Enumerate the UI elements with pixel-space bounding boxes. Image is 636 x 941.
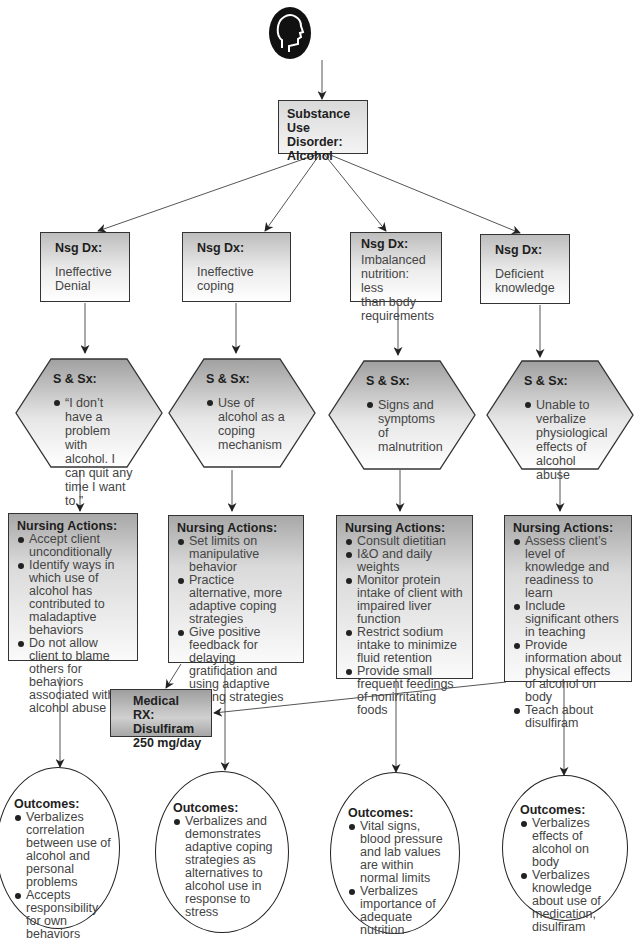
outcome-item: Verbalizes knowledge about use of medica… bbox=[520, 869, 619, 934]
root-diagnosis-box: Substance Use Disorder: Alcohol bbox=[278, 100, 368, 154]
signs-header: S & Sx: bbox=[206, 372, 286, 386]
action-item: Practice alternative, more adaptive copi… bbox=[177, 574, 295, 626]
dx-text-line: requirements bbox=[361, 309, 431, 323]
rx-title: Medical RX: bbox=[133, 694, 203, 722]
signs-header: S & Sx: bbox=[53, 372, 133, 386]
nsg-dx-box-nutrition: Nsg Dx: Imbalanced nutrition: less than … bbox=[350, 232, 442, 302]
medical-rx-box: Medical RX: Disulfiram 250 mg/day bbox=[110, 689, 212, 737]
outcome-item: Accepts responsibility for own behaviors bbox=[14, 889, 111, 941]
action-item: I&O and daily weights bbox=[345, 548, 464, 574]
human-head-profile-icon bbox=[268, 6, 312, 60]
nsg-dx-box-denial: Nsg Dx: Ineffective Denial bbox=[40, 232, 130, 302]
outcome-item: Vital signs, blood pressure and lab valu… bbox=[348, 820, 451, 885]
signs-hexagon-coping: S & Sx: Use of alcohol as a coping mecha… bbox=[168, 358, 316, 468]
nursing-actions-coping: Nursing Actions: Set limits on manipulat… bbox=[168, 515, 304, 663]
dx-header: Nsg Dx: bbox=[197, 241, 276, 255]
dx-header: Nsg Dx: bbox=[495, 243, 555, 257]
outcomes-oval-knowledge: Outcomes: Verbalizes effects of alcohol … bbox=[502, 775, 628, 921]
outcomes-oval-coping: Outcomes: Verbalizes and demonstrates ad… bbox=[155, 771, 289, 933]
action-item: Teach about disulfiram bbox=[513, 704, 623, 730]
dx-text-line: Deficient bbox=[495, 267, 555, 281]
rx-drug: Disulfiram bbox=[133, 722, 203, 736]
outcome-item: Verbalizes correlation between use of al… bbox=[14, 811, 111, 889]
rx-dose: 250 mg/day bbox=[133, 736, 203, 750]
sign-item: Unable to verbalize physiological effect… bbox=[524, 398, 604, 482]
action-item: Include significant others in teaching bbox=[513, 600, 623, 639]
outcome-item: Verbalizes and demonstrates adaptive cop… bbox=[173, 815, 280, 919]
outcomes-oval-nutrition: Outcomes: Vital signs, blood pressure an… bbox=[330, 772, 460, 934]
action-item: Accept client unconditionally bbox=[17, 533, 129, 559]
nursing-actions-knowledge: Nursing Actions: Assess client’s level o… bbox=[504, 515, 632, 682]
root-line-3: Alcohol bbox=[287, 149, 359, 163]
nursing-actions-denial: Nursing Actions: Accept client unconditi… bbox=[8, 513, 138, 661]
sign-item: “I don’t have a problem with alcohol. I … bbox=[53, 396, 133, 508]
outcome-item: Verbalizes importance of adequate nutrit… bbox=[348, 885, 451, 937]
dx-text-line: than body bbox=[361, 295, 431, 309]
dx-header: Nsg Dx: bbox=[361, 237, 431, 251]
dx-text-line: Denial bbox=[55, 279, 115, 293]
action-item: Provide information about physical effec… bbox=[513, 639, 623, 704]
root-line-2: Disorder: bbox=[287, 135, 359, 149]
action-item: Restrict sodium intake to minimize fluid… bbox=[345, 626, 464, 665]
root-line-1: Substance Use bbox=[287, 107, 359, 135]
signs-hexagon-denial: S & Sx: “I don’t have a problem with alc… bbox=[15, 358, 163, 468]
sign-item: Use of alcohol as a coping mechanism bbox=[206, 396, 286, 452]
action-item: Assess client’s level of knowledge and r… bbox=[513, 535, 623, 600]
dx-header: Nsg Dx: bbox=[55, 241, 115, 255]
sign-item: Signs and symptoms of malnutrition bbox=[366, 398, 446, 454]
signs-header: S & Sx: bbox=[524, 374, 604, 388]
action-item: Provide small frequent feedings of nonir… bbox=[345, 665, 464, 717]
action-item: Monitor protein intake of client with im… bbox=[345, 574, 464, 626]
outcomes-oval-denial: Outcomes: Verbalizes correlation between… bbox=[0, 767, 120, 929]
signs-header: S & Sx: bbox=[366, 374, 446, 388]
nsg-dx-box-coping: Nsg Dx: Ineffective coping bbox=[182, 232, 291, 302]
action-item: Set limits on manipulative behavior bbox=[177, 535, 295, 574]
signs-hexagon-nutrition: S & Sx: Signs and symptoms of malnutriti… bbox=[328, 360, 476, 470]
nsg-dx-box-knowledge: Nsg Dx: Deficient knowledge bbox=[480, 234, 570, 304]
signs-hexagon-knowledge: S & Sx: Unable to verbalize physiologica… bbox=[486, 360, 634, 470]
action-item: Identify ways in which use of alcohol ha… bbox=[17, 559, 129, 637]
dx-text-line: Ineffective bbox=[55, 265, 115, 279]
nursing-actions-nutrition: Nursing Actions: Consult dietitian I&O a… bbox=[336, 515, 473, 679]
outcome-item: Verbalizes effects of alcohol on body bbox=[520, 817, 619, 869]
dx-text-line: nutrition: less bbox=[361, 267, 431, 295]
dx-text-line: Imbalanced bbox=[361, 253, 431, 267]
dx-text-line: knowledge bbox=[495, 281, 555, 295]
dx-text-line: Ineffective coping bbox=[197, 265, 276, 293]
